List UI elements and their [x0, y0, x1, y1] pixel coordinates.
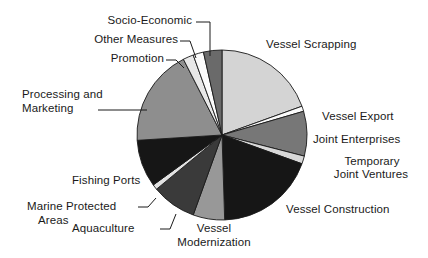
slice-label-vessel-modernization-line1: Vessel — [176, 222, 252, 236]
pie-chart-figure: Socio-Economic Other Measures Promotion … — [0, 0, 428, 258]
slice-label-temporary-joint-ventures-line1: Temporary — [318, 155, 426, 169]
slice-label-marine-protected-areas-line1: Marine Protected — [27, 200, 139, 214]
slice-label-vessel-scrapping: Vessel Scrapping — [266, 38, 406, 52]
slice-label-joint-enterprises: Joint Enterprises — [313, 133, 427, 147]
leader-line-marine-protected-areas — [138, 198, 156, 207]
slice-label-vessel-construction: Vessel Construction — [286, 203, 424, 217]
slice-label-processing-and-marketing-line2: Marketing — [22, 102, 114, 116]
slice-label-vessel-export: Vessel Export — [322, 110, 426, 124]
slice-label-fishing-ports: Fishing Ports — [72, 174, 168, 188]
slice-label-temporary-joint-ventures-line2: Joint Ventures — [314, 168, 428, 182]
slice-label-other-measures: Other Measures — [48, 33, 178, 47]
slice-label-promotion: Promotion — [62, 52, 164, 66]
slice-label-processing-and-marketing-line1: Processing and — [22, 88, 114, 102]
pie-slices-group — [137, 50, 307, 220]
slice-label-socio-economic: Socio-Economic — [60, 14, 192, 28]
slice-label-aquaculture: Aquaculture — [72, 222, 164, 236]
slice-label-vessel-modernization-line2: Modernization — [158, 236, 270, 250]
